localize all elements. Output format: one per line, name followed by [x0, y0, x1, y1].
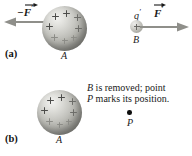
charge-plus-icon [46, 118, 53, 125]
charge-plus-icon [71, 35, 77, 41]
charge-plus-icon [41, 107, 48, 114]
sphere-a-panel-b [37, 90, 82, 135]
force-label-minus-f-text: −F [17, 6, 31, 18]
sphere-a-label-panel-a: A [61, 50, 67, 61]
caption-line-2: P marks its position. [87, 93, 169, 105]
force-label-minus-f-prime: −F′ [17, 4, 33, 18]
caption-line-2-text: marks its position. [93, 93, 169, 104]
force-arrow-right [140, 21, 190, 33]
sphere-b-label: B [133, 34, 139, 45]
charge-plus-icon [62, 38, 68, 44]
sphere-a-panel-a [42, 6, 87, 51]
charge-plus-icon [70, 109, 77, 116]
charge-plus-icon [74, 14, 81, 21]
panel-label-a: (a) [5, 48, 17, 59]
charge-plus-icon [63, 10, 70, 17]
charge-plus-icon [52, 13, 59, 20]
vector-accent-icon [25, 2, 38, 7]
charge-plus-icon [58, 94, 65, 101]
charge-plus-icon [75, 25, 82, 32]
physics-figure-coulomb-force: −F′ A (a) q′ B F′ [0, 0, 192, 156]
charge-plus-icon [51, 34, 58, 41]
point-p-label: P [127, 117, 133, 128]
caption-line-1: B is removed; point [87, 82, 166, 94]
point-p-dot-icon [127, 110, 132, 115]
charge-plus-icon [69, 98, 76, 105]
sphere-a-label-panel-b: A [56, 134, 62, 145]
charge-plus-icon [46, 23, 53, 30]
vector-accent-icon [154, 2, 166, 7]
charge-plus-icon [66, 119, 72, 125]
force-label-f-prime: F′ [154, 5, 164, 19]
panel-label-b: (b) [5, 133, 18, 144]
charge-q-prime-mark: ′ [139, 8, 141, 17]
charge-plus-icon [134, 24, 140, 30]
caption-line-1-text: is removed; point [93, 82, 166, 93]
charge-plus-icon [57, 122, 63, 128]
charge-plus-icon [47, 97, 54, 104]
